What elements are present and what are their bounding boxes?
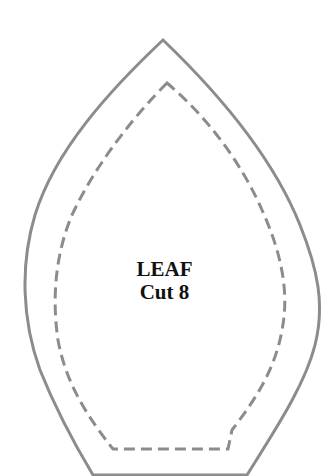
cut-instruction: Cut 8 (0, 281, 329, 304)
leaf-pattern (0, 0, 329, 476)
pattern-label: LEAF Cut 8 (0, 258, 329, 304)
pattern-name: LEAF (0, 258, 329, 281)
